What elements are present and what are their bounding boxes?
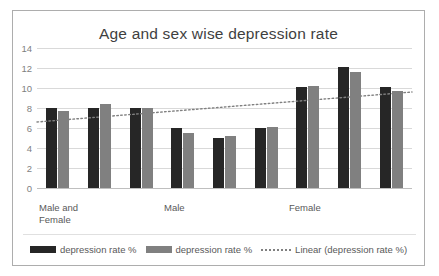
dotted-line-icon	[261, 249, 291, 251]
legend-label: Linear (depression rate %)	[295, 244, 407, 255]
bar	[58, 111, 69, 188]
chart-container: Age and sex wise depression rate 0246810…	[12, 10, 425, 266]
y-axis-tick-label: 6	[27, 123, 32, 134]
bar	[255, 128, 266, 189]
y-axis-tick-label: 10	[21, 83, 32, 94]
bar-group	[255, 48, 278, 188]
legend-label: depression rate %	[60, 244, 137, 255]
bar	[225, 136, 236, 188]
y-axis-tick-label: 8	[27, 103, 32, 114]
bar	[308, 86, 319, 188]
legend-item[interactable]: Linear (depression rate %)	[261, 244, 407, 255]
x-axis-label: Female	[289, 202, 321, 214]
y-axis-tick-label: 0	[27, 183, 32, 194]
bar	[267, 127, 278, 188]
bar-swatch-icon	[30, 246, 56, 253]
bar-group	[46, 48, 69, 188]
bar	[88, 108, 99, 188]
bar	[46, 108, 57, 188]
x-axis-label: Male and Female	[39, 202, 78, 226]
bar	[338, 67, 349, 188]
bar-group	[338, 48, 361, 188]
chart-title: Age and sex wise depression rate	[13, 25, 424, 43]
bar-group	[213, 48, 236, 188]
bar	[380, 87, 391, 188]
y-axis-tick-label: 12	[21, 63, 32, 74]
bar	[142, 108, 153, 189]
bar	[350, 72, 361, 188]
legend-label: depression rate %	[176, 244, 253, 255]
legend-divider	[23, 234, 416, 235]
bar	[296, 87, 307, 188]
legend-item[interactable]: depression rate %	[30, 244, 137, 255]
chart-legend: depression rate %depression rate %Linear…	[13, 244, 424, 255]
bar	[213, 138, 224, 188]
bar	[100, 104, 111, 188]
plot-area: 02468101214	[37, 48, 412, 198]
y-axis-tick-label: 4	[27, 143, 32, 154]
bar-group	[88, 48, 111, 188]
bar	[171, 128, 182, 189]
bar-group	[380, 48, 403, 188]
bar	[183, 133, 194, 188]
bar-swatch-icon	[146, 246, 172, 253]
bar-group	[130, 48, 153, 188]
y-axis-tick-label: 14	[21, 43, 32, 54]
bar-series-group	[37, 48, 412, 198]
bar	[130, 108, 141, 189]
bar	[392, 91, 403, 188]
bar-group	[171, 48, 194, 188]
y-axis-tick-label: 2	[27, 163, 32, 174]
legend-item[interactable]: depression rate %	[146, 244, 253, 255]
x-axis-label: Male	[164, 202, 185, 214]
bar-group	[296, 48, 319, 188]
